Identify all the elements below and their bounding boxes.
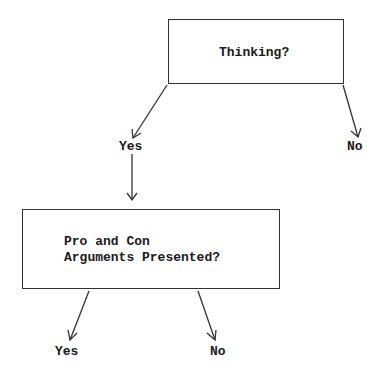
arrow-thinking-yes [133,85,167,138]
arrow-procon-no [198,291,215,340]
arrow-thinking-no [343,85,358,137]
arrow-procon-yes [70,291,89,340]
connector-arrows [0,0,382,375]
